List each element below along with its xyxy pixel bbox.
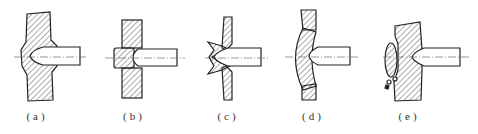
panel-e-spalling <box>383 22 470 101</box>
debris-3 <box>385 85 389 89</box>
plate-upper <box>301 10 316 30</box>
projectile <box>30 47 80 65</box>
label-b: (b) <box>123 110 145 122</box>
spall-fragment <box>385 43 397 77</box>
debris-2 <box>393 77 397 81</box>
plate-lower <box>222 66 232 100</box>
plate-lower <box>302 84 316 100</box>
projectile <box>309 47 350 65</box>
label-c: (c) <box>217 110 238 122</box>
plate-upper <box>122 20 142 48</box>
projectile <box>133 49 177 66</box>
plate-lower <box>122 68 142 98</box>
label-d: (d) <box>302 110 324 122</box>
panel-b-plugging <box>105 20 185 98</box>
panel-d-dishing <box>285 10 358 100</box>
panel-a-ductile-hole <box>14 12 86 101</box>
debris-1 <box>387 80 391 84</box>
label-a: (a) <box>26 110 47 122</box>
panel-c-petalling <box>205 17 268 100</box>
plate-upper <box>222 17 232 50</box>
label-e: (e) <box>398 110 419 122</box>
projectile <box>214 48 261 66</box>
